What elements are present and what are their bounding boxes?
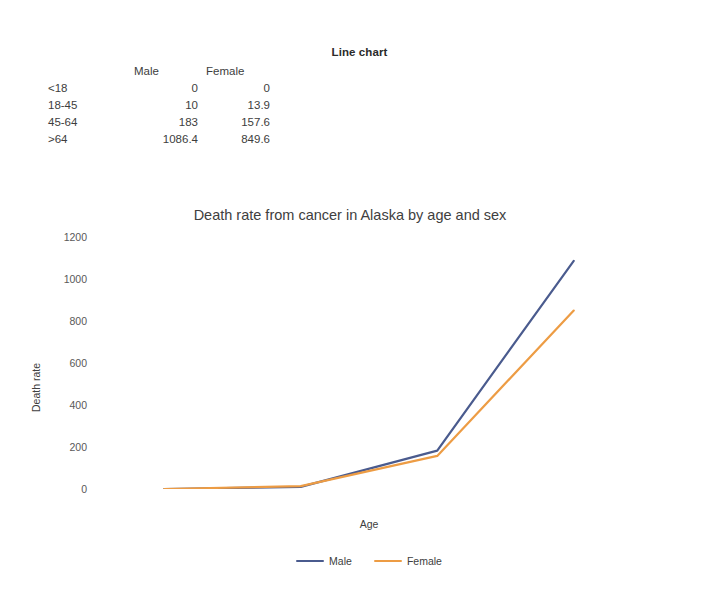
table-corner-header xyxy=(48,62,130,79)
y-axis-title: Death rate xyxy=(30,363,42,412)
table-cell-category: >64 xyxy=(48,130,130,147)
table-column-header-male: Male xyxy=(130,62,202,79)
series-lines xyxy=(96,237,642,489)
table-cell-male: 1086.4 xyxy=(130,130,202,147)
table-column-header-female: Female xyxy=(202,62,274,79)
legend-item-male[interactable]: Male xyxy=(296,555,352,567)
table-row: 18-45 10 13.9 xyxy=(48,96,274,113)
legend-item-female[interactable]: Female xyxy=(374,555,442,567)
x-axis-title: Age xyxy=(96,518,642,530)
y-axis-tick-label: 800 xyxy=(69,315,96,327)
table-cell-category: <18 xyxy=(48,79,130,96)
table-cell-female: 0 xyxy=(202,79,274,96)
chart-legend: MaleFemale xyxy=(96,555,642,567)
legend-label: Female xyxy=(407,555,442,567)
table-cell-female: 13.9 xyxy=(202,96,274,113)
table-row: <18 0 0 xyxy=(48,79,274,96)
section-heading: Line chart xyxy=(0,46,719,58)
legend-label: Male xyxy=(329,555,352,567)
table-header-row: Male Female xyxy=(48,62,274,79)
legend-swatch-female xyxy=(374,560,402,563)
plot-area: Death rate 020040060080010001200 <1818-4… xyxy=(96,237,642,601)
y-axis-tick-label: 200 xyxy=(69,441,96,453)
series-line-female xyxy=(164,311,574,489)
y-axis-tick-label: 0 xyxy=(81,483,96,495)
y-axis-tick-label: 1200 xyxy=(64,231,96,243)
legend-swatch-male xyxy=(296,560,324,563)
table-cell-female: 157.6 xyxy=(202,113,274,130)
table-cell-category: 18-45 xyxy=(48,96,130,113)
table-cell-category: 45-64 xyxy=(48,113,130,130)
y-axis-tick-label: 1000 xyxy=(64,273,96,285)
table-cell-male: 10 xyxy=(130,96,202,113)
table-row: 45-64 183 157.6 xyxy=(48,113,274,130)
table-cell-male: 183 xyxy=(130,113,202,130)
y-axis-tick-label: 400 xyxy=(69,399,96,411)
table-row: >64 1086.4 849.6 xyxy=(48,130,274,147)
source-data-table: Male Female <18 0 0 18-45 10 13.9 45-64 … xyxy=(48,62,274,147)
chart-title: Death rate from cancer in Alaska by age … xyxy=(60,207,640,223)
table-cell-female: 849.6 xyxy=(202,130,274,147)
table-cell-male: 0 xyxy=(130,79,202,96)
line-chart: Death rate from cancer in Alaska by age … xyxy=(0,195,719,585)
y-axis-tick-label: 600 xyxy=(69,357,96,369)
